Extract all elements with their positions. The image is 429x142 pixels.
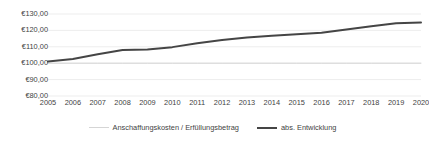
x-axis-tick-label: 2007 xyxy=(89,99,105,107)
x-axis-tick-label: 2009 xyxy=(139,99,155,107)
x-axis-tick-label: 2016 xyxy=(313,99,329,107)
x-axis-tick-label: 2020 xyxy=(413,99,429,107)
x-axis-tick-label: 2015 xyxy=(288,99,304,107)
legend-item-label: abs. Entwicklung xyxy=(281,123,336,132)
x-axis-tick-label: 2010 xyxy=(164,99,180,107)
x-axis-tick-label: 2019 xyxy=(388,99,404,107)
x-axis-tick-label: 2008 xyxy=(114,99,130,107)
chart-legend: Anschaffungskosten / Erfüllungsbetrag ab… xyxy=(0,123,425,132)
x-axis-tick-label: 2017 xyxy=(338,99,354,107)
x-axis-tick-label: 2011 xyxy=(189,99,205,107)
x-axis-tick-label: 2012 xyxy=(214,99,230,107)
legend-line-icon xyxy=(89,127,109,128)
x-axis-tick-label: 2018 xyxy=(363,99,379,107)
x-axis-tick-label: 2013 xyxy=(239,99,255,107)
x-axis-tick-label: 2014 xyxy=(264,99,280,107)
x-axis-tick-label: 2006 xyxy=(65,99,81,107)
legend-item-label: Anschaffungskosten / Erfüllungsbetrag xyxy=(113,123,239,132)
x-axis-tick-label: 2005 xyxy=(40,99,56,107)
legend-item-anschaffungskosten[interactable]: Anschaffungskosten / Erfüllungsbetrag xyxy=(89,123,239,132)
legend-line-icon xyxy=(257,127,277,129)
legend-item-abs-entwicklung[interactable]: abs. Entwicklung xyxy=(257,123,336,132)
